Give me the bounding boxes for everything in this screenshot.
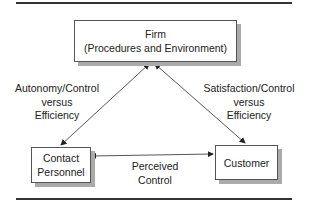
- node-contact-line2: Personnel: [37, 165, 84, 179]
- edge-label-firm-customer: Satisfaction/Control versus Efficiency: [196, 82, 302, 123]
- node-contact-personnel: Contact Personnel: [31, 147, 91, 183]
- node-customer-label: Customer: [224, 156, 270, 170]
- edge-label-contact-customer: Perceived Control: [115, 160, 195, 187]
- node-contact-line1: Contact: [43, 151, 79, 165]
- node-firm-title: Firm: [145, 27, 166, 41]
- edge-label-firm-contact: Autonomy/Control versus Efficiency: [0, 82, 114, 123]
- node-firm: Firm (Procedures and Environment): [74, 20, 237, 62]
- node-firm-subtitle: (Procedures and Environment): [84, 41, 227, 55]
- arrow-contact-customer: [91, 154, 213, 156]
- node-customer: Customer: [215, 145, 278, 180]
